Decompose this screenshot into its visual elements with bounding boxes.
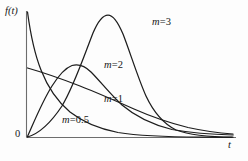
x-axis-label: t [228, 140, 231, 151]
series-label-m-1-var: m [104, 93, 112, 104]
series-label-m-3-value: 3 [166, 16, 171, 27]
plot-area [0, 0, 248, 161]
series-label-m-2-var: m [104, 59, 112, 70]
series-label-m-0-5: m=0.5 [62, 115, 89, 126]
series-label-m-3: m=3 [152, 17, 171, 28]
origin-label: 0 [15, 129, 20, 140]
curve-m-0-5 [28, 12, 233, 137]
series-label-m-2: m=2 [104, 60, 123, 71]
series-label-m-2-value: 2 [118, 59, 123, 70]
weibull-density-figure: f(t) t 0 m=3 m=2 m=1 m=0.5 [0, 0, 248, 161]
series-label-m-0-5-value: 0.5 [76, 114, 89, 125]
y-axis-label: f(t) [5, 6, 18, 17]
series-label-m-1-value: 1 [118, 93, 123, 104]
series-label-m-1: m=1 [104, 94, 123, 105]
series-label-m-0-5-var: m [62, 114, 70, 125]
series-label-m-3-var: m [152, 16, 160, 27]
